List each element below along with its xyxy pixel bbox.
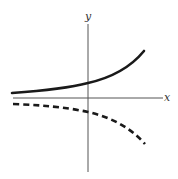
dashed-curve [13,104,145,144]
solid-curve [12,51,144,93]
graph-canvas: x y [0,0,178,179]
x-axis-label: x [164,91,171,104]
y-axis-label: y [84,10,92,23]
